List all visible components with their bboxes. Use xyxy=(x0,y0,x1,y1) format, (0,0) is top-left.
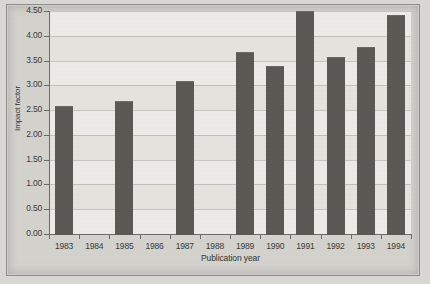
y-axis-tick-label: 0.00 xyxy=(0,228,42,238)
bar xyxy=(115,101,133,235)
x-axis-tick xyxy=(49,235,50,239)
y-axis-tick-label: 0.50 xyxy=(0,203,42,213)
x-axis-tick-label: 1993 xyxy=(351,241,381,251)
bar xyxy=(296,11,314,235)
x-axis-tick-label: 1987 xyxy=(170,241,200,251)
y-axis-tick xyxy=(44,160,49,161)
x-axis-tick-label: 1984 xyxy=(79,241,109,251)
y-axis-tick-label: 4.00 xyxy=(0,30,42,40)
x-axis-tick xyxy=(290,235,291,239)
x-axis-tick-label: 1989 xyxy=(230,241,260,251)
x-axis-tick xyxy=(260,235,261,239)
x-axis-tick-label: 1990 xyxy=(260,241,290,251)
bar xyxy=(236,52,254,235)
x-axis-tick-label: 1992 xyxy=(321,241,351,251)
x-axis-tick xyxy=(109,235,110,239)
bar xyxy=(327,57,345,235)
y-axis-title: Impact factor xyxy=(13,74,22,144)
bar xyxy=(266,66,284,235)
y-axis-tick-label: 1.50 xyxy=(0,154,42,164)
x-axis-tick xyxy=(321,235,322,239)
y-axis-tick-label: 1.00 xyxy=(0,178,42,188)
y-axis-tick xyxy=(44,11,49,12)
y-axis-tick xyxy=(44,61,49,62)
plot-band xyxy=(49,11,411,36)
x-axis-tick xyxy=(200,235,201,239)
gridline xyxy=(49,11,411,12)
x-axis-tick xyxy=(411,235,412,239)
y-axis-tick xyxy=(44,110,49,111)
x-axis-tick xyxy=(140,235,141,239)
x-axis-title: Publication year xyxy=(49,253,412,263)
bar xyxy=(387,15,405,235)
bar xyxy=(176,81,194,235)
y-axis-line xyxy=(49,11,50,235)
x-axis-tick-label: 1985 xyxy=(109,241,139,251)
y-axis-tick xyxy=(44,184,49,185)
x-axis-tick xyxy=(230,235,231,239)
x-axis-tick-label: 1994 xyxy=(381,241,411,251)
y-axis-tick xyxy=(44,135,49,136)
y-axis-tick-label: 4.50 xyxy=(0,5,42,15)
y-axis-tick xyxy=(44,36,49,37)
x-axis-tick xyxy=(351,235,352,239)
x-axis-tick-label: 1983 xyxy=(49,241,79,251)
x-axis-tick-label: 1986 xyxy=(140,241,170,251)
x-axis-tick xyxy=(381,235,382,239)
x-axis-tick xyxy=(170,235,171,239)
x-axis-tick-label: 1988 xyxy=(200,241,230,251)
y-axis-tick xyxy=(44,209,49,210)
gridline xyxy=(49,36,411,37)
bar xyxy=(357,47,375,235)
y-axis-tick xyxy=(44,85,49,86)
y-axis-tick-label: 3.50 xyxy=(0,55,42,65)
x-axis-tick-label: 1991 xyxy=(290,241,320,251)
x-axis-tick xyxy=(79,235,80,239)
bar xyxy=(55,106,73,235)
